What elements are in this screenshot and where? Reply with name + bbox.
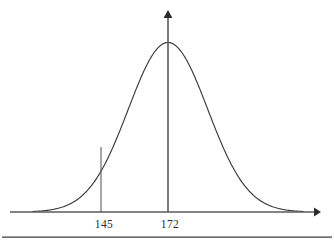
tick-label-172: 172	[161, 218, 179, 230]
normal-distribution-figure: 145 172	[0, 0, 334, 245]
figure-background	[0, 0, 334, 245]
tick-label-145: 145	[95, 218, 113, 230]
